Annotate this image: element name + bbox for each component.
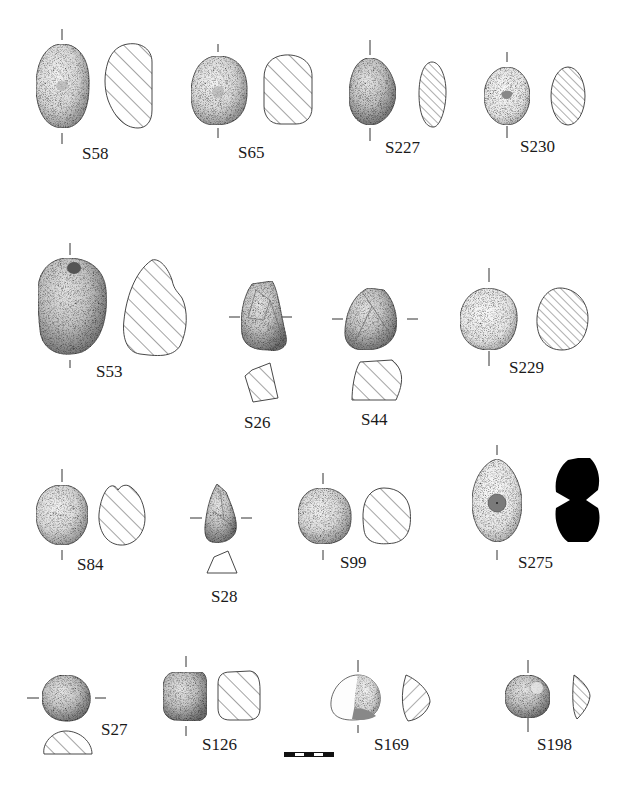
label-S84: S84 (77, 555, 103, 575)
label-S229: S229 (509, 358, 544, 378)
label-S53: S53 (96, 362, 122, 382)
artifact-drawings (0, 0, 629, 793)
label-S169: S169 (374, 735, 409, 755)
label-S126: S126 (202, 735, 237, 755)
artifact-plate: S58 S65 S227 S230 S53 S26 S44 S229 S84 S… (0, 0, 629, 793)
label-S44: S44 (361, 410, 387, 430)
artifact-S227 (349, 40, 446, 141)
label-S230: S230 (520, 137, 555, 157)
artifact-S84 (36, 469, 145, 560)
artifact-S28 (190, 484, 252, 573)
artifact-S44 (332, 288, 418, 400)
artifact-S169 (331, 660, 430, 733)
label-S65: S65 (238, 143, 264, 163)
label-S198: S198 (537, 735, 572, 755)
scale-bar-segment (285, 753, 295, 756)
label-S275: S275 (518, 553, 553, 573)
artifact-S198 (505, 660, 590, 732)
artifact-S27 (27, 675, 106, 754)
artifact-S58 (36, 29, 152, 144)
scale-bar-segment (295, 753, 305, 756)
artifact-S229 (460, 268, 588, 366)
artifact-S53 (38, 243, 186, 368)
artifact-S99 (298, 473, 410, 560)
scale-bar (284, 752, 334, 757)
scale-bar-segment (323, 753, 333, 756)
artifact-S275 (472, 445, 600, 560)
label-S99: S99 (340, 553, 366, 573)
artifact-S126 (163, 656, 260, 736)
artifact-S26 (229, 281, 292, 402)
scale-bar-segment (314, 753, 324, 756)
label-S227: S227 (385, 138, 420, 158)
artifact-S230 (484, 52, 585, 138)
label-S26: S26 (244, 413, 270, 433)
label-S58: S58 (82, 144, 108, 164)
label-S28: S28 (211, 587, 237, 607)
artifact-S65 (191, 44, 312, 138)
label-S27: S27 (101, 720, 127, 740)
scale-bar-segment (304, 753, 314, 756)
